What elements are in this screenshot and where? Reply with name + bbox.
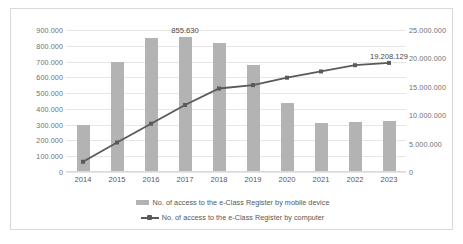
- category-label: 2016: [143, 175, 160, 184]
- legend-label-computer: No. of access to the e-Class Register by…: [162, 213, 325, 222]
- line-marker: [217, 87, 221, 91]
- category-label: 2017: [177, 175, 194, 184]
- left-axis-tick: 500.000: [36, 89, 63, 98]
- left-axis-tick: 600.000: [36, 73, 63, 82]
- right-axis-tick: 15.000.000: [409, 82, 446, 91]
- left-axis-tick: 200.000: [36, 136, 63, 145]
- category-label: 2014: [75, 175, 92, 184]
- line-marker: [387, 61, 391, 65]
- category-label: 2020: [279, 175, 296, 184]
- line-marker: [251, 83, 255, 87]
- legend-item-computer[interactable]: No. of access to the e-Class Register by…: [11, 210, 454, 225]
- right-axis-labels: 05.000.00010.000.00015.000.00020.000.000…: [409, 30, 463, 172]
- line-marker: [319, 69, 323, 73]
- right-axis-tick: 20.000.000: [409, 54, 446, 63]
- data-label: 855.630: [171, 26, 198, 35]
- bar-swatch-icon: [136, 200, 149, 205]
- left-axis-tick: 900.000: [36, 26, 63, 35]
- line-path: [83, 63, 389, 162]
- right-axis-tick: 0: [409, 168, 413, 177]
- left-axis-tick: 800.000: [36, 41, 63, 50]
- right-axis-tick: 5.000.000: [409, 139, 442, 148]
- category-label: 2023: [381, 175, 398, 184]
- left-axis-tick: 700.000: [36, 57, 63, 66]
- line-marker: [183, 103, 187, 107]
- line-marker: [149, 122, 153, 126]
- category-label: 2019: [245, 175, 262, 184]
- left-axis-tick: 100.000: [36, 152, 63, 161]
- line-marker: [353, 63, 357, 67]
- left-axis-labels: 0100.000200.000300.000400.000500.000600.…: [11, 30, 63, 172]
- category-label: 2015: [109, 175, 126, 184]
- category-label: 2022: [347, 175, 364, 184]
- category-axis-line: [66, 171, 406, 172]
- chart-container: 0100.000200.000300.000400.000500.000600.…: [10, 8, 453, 230]
- line-marker: [81, 160, 85, 164]
- left-axis-tick: 400.000: [36, 104, 63, 113]
- chart-legend: No. of access to the e-Class Register by…: [11, 195, 454, 225]
- category-label: 2021: [313, 175, 330, 184]
- line-marker: [285, 76, 289, 80]
- category-axis-labels: 2014201520162017201820192020202120222023: [66, 175, 406, 189]
- left-axis-tick: 0: [59, 168, 63, 177]
- right-axis-tick: 25.000.000: [409, 26, 446, 35]
- data-label: 19.208.129: [370, 52, 408, 61]
- plot-area: [66, 30, 406, 172]
- line-marker: [115, 140, 119, 144]
- gridline: [66, 172, 406, 173]
- line-series-computer: [66, 30, 406, 172]
- right-axis-tick: 10.000.000: [409, 111, 446, 120]
- legend-label-mobile-device: No. of access to the e-Class Register by…: [153, 198, 330, 207]
- left-axis-tick: 300.000: [36, 120, 63, 129]
- legend-item-mobile-device[interactable]: No. of access to the e-Class Register by…: [11, 195, 454, 210]
- line-marker-icon: [141, 214, 159, 221]
- category-label: 2018: [211, 175, 228, 184]
